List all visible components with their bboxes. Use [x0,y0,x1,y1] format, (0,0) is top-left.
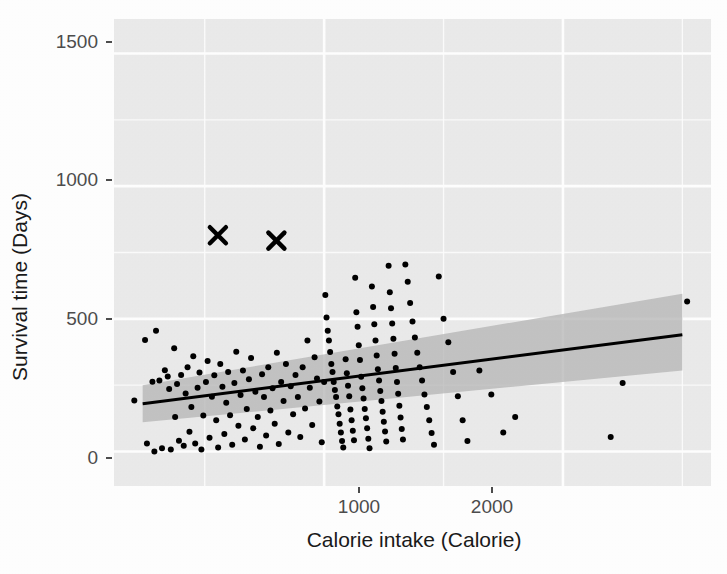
plot-panel [114,19,711,486]
scatter-point [207,435,213,441]
scatter-point [441,316,447,322]
scatter-point [378,398,384,404]
scatter-point [259,371,265,377]
scatter-point [176,438,182,444]
scatter-point [372,338,378,344]
scatter-point [328,361,334,367]
scatter-point [144,441,150,447]
scatter-point [332,387,338,393]
scatter-point [399,426,405,432]
scatter-point [316,399,322,405]
scatter-point [205,358,211,364]
scatter-point [285,429,291,435]
scatter-point [276,441,282,447]
scatter-point [149,379,155,385]
scatter-point [255,414,261,420]
scatter-point [353,309,359,315]
scatter-point [684,299,690,305]
scatter-point [375,366,381,372]
scatter-point [290,411,296,417]
scatter-point [278,379,284,385]
scatter-point [240,368,246,374]
scatter-point [281,398,287,404]
scatter-point [297,434,303,440]
scatter-point [257,444,263,450]
scatter-point [165,373,171,379]
scatter-point [322,292,328,298]
scatter-point [302,406,308,412]
scatter-point [424,404,430,410]
scatter-point [274,350,280,356]
scatter-point [162,367,168,373]
scatter-point [198,446,204,452]
scatter-point [250,425,256,431]
scatter-point [319,439,325,445]
y-axis-title: Survival time (Days) [0,0,40,574]
scatter-point [265,364,271,370]
scatter-point [330,369,336,375]
scatter-point [225,369,231,375]
scatter-point [344,370,350,376]
scatter-point [377,388,383,394]
y-tick-mark-0 [106,457,112,459]
scatter-point [339,438,345,444]
scatter-point [394,379,400,385]
scatter-point [349,417,355,423]
scatter-point [455,393,461,399]
scatter-point [388,305,394,311]
scatter-point [195,385,201,391]
scatter-point [151,449,157,455]
scatter-point [371,321,377,327]
scatter-point [367,445,373,451]
scatter-point [283,361,289,367]
scatter-point [263,433,269,439]
scatter-point [229,442,235,448]
scatter-point [221,431,227,437]
scatter-point [392,351,398,357]
scatter-point [414,350,420,356]
chart-figure: Survival time (Days) Calorie intake (Cal… [0,0,727,574]
scatter-point [460,417,466,423]
scatter-point [445,339,451,345]
scatter-point [142,337,148,343]
scatter-point [304,338,310,344]
scatter-point [361,395,367,401]
scatter-point [395,391,401,397]
scatter-point [200,412,206,418]
scatter-point [488,391,494,397]
scatter-point [431,442,437,448]
scatter-point [338,429,344,435]
scatter-point [335,411,341,417]
scatter-point [172,414,178,420]
scatter-point [227,412,233,418]
scatter-point [500,429,506,435]
scatter-point [267,407,273,413]
scatter-point [421,391,427,397]
x-tick-label-2000: 2000 [471,496,513,518]
scatter-point [183,390,189,396]
scatter-point [346,393,352,399]
scatter-point [272,421,278,427]
scatter-point [190,353,196,359]
scatter-point [215,445,221,451]
scatter-point [608,434,614,440]
scatter-point [350,428,356,434]
scatter-point [131,398,137,404]
scatter-point [246,376,252,382]
scatter-point [357,357,363,363]
scatter-point [178,372,184,378]
scatter-point [192,441,198,447]
scatter-point [307,385,313,391]
scatter-point [159,445,165,451]
scatter-point [337,421,343,427]
scatter-point [325,328,331,334]
scatter-point [242,437,248,443]
scatter-point [334,403,340,409]
scatter-point [355,324,361,330]
y-tick-mark-500 [106,318,112,320]
scatter-point [369,283,375,289]
scatter-point [300,364,306,370]
scatter-point [426,417,432,423]
scatter-point [396,403,402,409]
scatter-point [412,334,418,340]
